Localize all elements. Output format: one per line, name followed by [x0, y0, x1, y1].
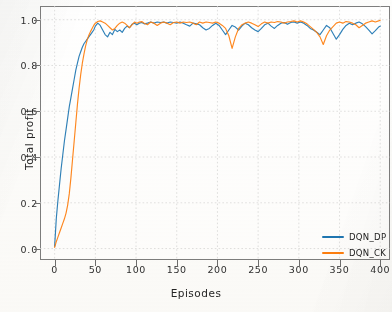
x-axis-title: Episodes — [0, 287, 392, 299]
x-tick-mark — [299, 260, 300, 266]
gridlines — [40, 6, 390, 260]
y-tick-label: 0.8 — [0, 60, 38, 71]
y-tick-label: 0.2 — [0, 197, 38, 208]
chart-figure: 0.00.20.40.60.81.0 050100150200250300350… — [0, 0, 392, 312]
legend-swatch-dqn-dp — [322, 236, 344, 238]
legend-item[interactable]: DQN_CK — [322, 247, 386, 258]
x-tick-mark — [258, 260, 259, 266]
legend-item[interactable]: DQN_DP — [322, 231, 386, 242]
x-tick-mark — [177, 260, 178, 266]
y-axis-title: Total profit — [23, 84, 35, 194]
x-tick-mark — [55, 260, 56, 266]
series-lines — [55, 20, 381, 247]
y-tick-label: 0.0 — [0, 243, 38, 254]
legend-label: DQN_DP — [349, 232, 386, 242]
x-tick-mark — [380, 260, 381, 266]
chart-svg — [40, 6, 390, 260]
legend-label: DQN_CK — [349, 248, 386, 258]
y-tick-label: 1.0 — [0, 14, 38, 25]
x-tick-mark — [136, 260, 137, 266]
series-line-dqn-ck — [55, 20, 381, 247]
chart-legend: DQN_DP DQN_CK — [322, 231, 386, 258]
legend-swatch-dqn-ck — [322, 252, 344, 254]
x-tick-mark — [340, 260, 341, 266]
x-tick-mark — [217, 260, 218, 266]
x-tick-mark — [95, 260, 96, 266]
